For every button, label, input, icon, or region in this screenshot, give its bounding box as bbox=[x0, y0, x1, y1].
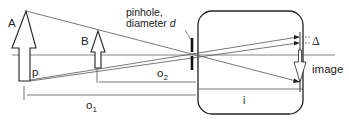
arrowhead-ray-lower bbox=[294, 41, 300, 46]
pinhole-label-line2: diameter d bbox=[126, 17, 177, 29]
arrowhead-ray-upper bbox=[294, 35, 300, 40]
pinhole-diameter-symbol: d bbox=[170, 17, 177, 29]
camera-box bbox=[198, 11, 303, 114]
object-A-label: A bbox=[8, 17, 16, 29]
o1-label: o1 bbox=[86, 99, 97, 114]
pinhole-camera-diagram: Δ pinhole, diameter d A p B o2 o1 i imag… bbox=[0, 0, 349, 125]
object-B-arrow-icon bbox=[91, 31, 105, 68]
pinhole-diameter-text: diameter bbox=[126, 17, 170, 29]
object-B-label: B bbox=[81, 35, 89, 47]
image-label: image bbox=[312, 63, 343, 75]
i-label: i bbox=[243, 94, 245, 106]
pinhole-leader bbox=[185, 30, 191, 40]
delta-label: Δ bbox=[312, 34, 320, 48]
point-p-label: p bbox=[32, 66, 38, 78]
o2-label: o2 bbox=[157, 67, 168, 82]
